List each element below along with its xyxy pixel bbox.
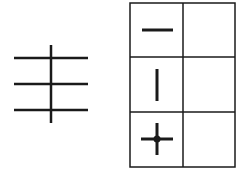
- diagram-canvas: [0, 0, 248, 182]
- cross-with-dot-icon: [141, 123, 173, 155]
- symbol-table: [130, 3, 235, 167]
- crossed-lines-figure: [14, 45, 88, 123]
